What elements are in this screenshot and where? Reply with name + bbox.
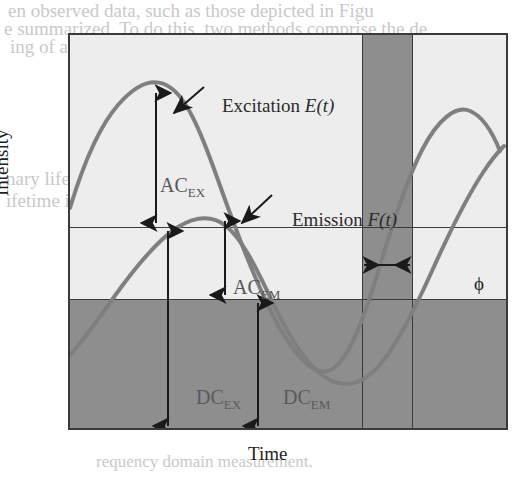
emission-label-text: Emission xyxy=(292,209,363,230)
dc-em-label: DCEM xyxy=(283,386,330,413)
ac-ex-sub-text: EX xyxy=(188,185,205,200)
plot-area: Excitation E(t) Emission F(t) ACEX ACEM … xyxy=(68,33,508,430)
ac-em-base-text: AC xyxy=(233,276,261,298)
ac-em-label: ACEM xyxy=(233,276,280,303)
phase-label: ϕ xyxy=(474,273,484,295)
dc-ex-label: DCEX xyxy=(196,386,241,413)
ac-em-sub-text: EM xyxy=(261,287,281,302)
annotation-layer xyxy=(70,35,506,428)
emission-curve-label: Emission F(t) xyxy=(292,209,397,231)
ac-ex-base-text: AC xyxy=(160,174,188,196)
figure-container: Intensity xyxy=(0,0,528,489)
excitation-symbol-text: E(t) xyxy=(305,95,335,116)
excitation-label-text: Excitation xyxy=(222,95,300,116)
dc-em-sub-text: EM xyxy=(311,397,331,412)
x-axis-label: Time xyxy=(248,443,287,465)
dc-ex-base-text: DC xyxy=(196,386,224,408)
ac-ex-label: ACEX xyxy=(160,174,205,201)
emission-leader-arrow xyxy=(242,195,272,223)
excitation-leader-arrow xyxy=(174,87,204,113)
dc-ex-sub-text: EX xyxy=(224,397,241,412)
emission-symbol-text: F(t) xyxy=(367,209,397,230)
excitation-curve-label: Excitation E(t) xyxy=(222,95,334,117)
dc-em-base-text: DC xyxy=(283,386,311,408)
y-axis-label: Intensity xyxy=(0,130,13,197)
